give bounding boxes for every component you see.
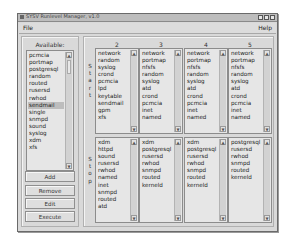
service-item[interactable]: routed bbox=[230, 167, 262, 174]
runlevel-2-stop-list[interactable]: xdmhttpdsoundrusersdrwhodnamedinetsnmpdr… bbox=[95, 137, 139, 223]
service-item[interactable]: network bbox=[97, 50, 129, 57]
remove-button[interactable]: Remove bbox=[25, 185, 75, 196]
runlevel-4-start-list[interactable]: networkportmapnfsfsrandomsyslogatdcrondp… bbox=[184, 48, 228, 134]
service-item[interactable]: gpm bbox=[97, 107, 129, 114]
service-item[interactable]: sound bbox=[97, 153, 129, 160]
list-scrollbar[interactable]: ▲▼ bbox=[219, 50, 226, 132]
service-item[interactable]: rwhod bbox=[97, 167, 129, 174]
service-item[interactable]: atd bbox=[97, 203, 129, 210]
service-item[interactable]: postgresql bbox=[186, 146, 218, 153]
service-item[interactable]: portmap bbox=[186, 57, 218, 64]
scroll-down-icon[interactable]: ▼ bbox=[220, 126, 226, 132]
service-item[interactable]: nfsfs bbox=[141, 64, 173, 71]
service-item[interactable]: crond bbox=[97, 71, 129, 78]
scroll-down-icon[interactable]: ▼ bbox=[66, 163, 72, 169]
minimize-button[interactable] bbox=[258, 15, 263, 20]
service-item[interactable]: crond bbox=[186, 93, 218, 100]
menu-file[interactable]: File bbox=[23, 24, 33, 31]
service-item[interactable]: rwhod bbox=[230, 153, 262, 160]
scroll-up-icon[interactable]: ▲ bbox=[175, 139, 181, 145]
service-item[interactable]: inet bbox=[186, 107, 218, 114]
window-menu-icon[interactable] bbox=[20, 15, 24, 19]
service-item[interactable]: rusersd bbox=[230, 146, 262, 153]
scroll-down-icon[interactable]: ▼ bbox=[175, 215, 181, 221]
scroll-down-icon[interactable]: ▼ bbox=[131, 215, 137, 221]
service-item[interactable]: network bbox=[141, 50, 173, 57]
maximize-button[interactable] bbox=[264, 15, 269, 20]
list-scrollbar[interactable]: ▲▼ bbox=[130, 139, 137, 221]
service-item[interactable]: kerneld bbox=[186, 182, 218, 189]
service-item[interactable]: kerneld bbox=[230, 174, 262, 181]
service-item[interactable]: portmap bbox=[230, 57, 262, 64]
service-item[interactable]: pcmcia bbox=[186, 100, 218, 107]
service-item[interactable]: atd bbox=[230, 85, 262, 92]
service-item[interactable]: network bbox=[186, 50, 218, 57]
service-item[interactable]: random bbox=[230, 71, 262, 78]
scroll-up-icon[interactable]: ▲ bbox=[220, 139, 226, 145]
service-item[interactable]: rusersd bbox=[186, 153, 218, 160]
runlevel-4-stop-list[interactable]: xdmpostgresqlrusersdrwhodsnmpdroutedkern… bbox=[184, 137, 228, 223]
service-item[interactable]: network bbox=[230, 50, 262, 57]
available-item[interactable]: routed bbox=[28, 80, 64, 87]
service-item[interactable]: atd bbox=[186, 85, 218, 92]
service-item[interactable]: routed bbox=[186, 174, 218, 181]
service-item[interactable]: pcmcia bbox=[230, 100, 262, 107]
available-item[interactable]: rusersd bbox=[28, 87, 64, 94]
service-item[interactable]: postgresql bbox=[230, 139, 262, 146]
available-item[interactable]: single bbox=[28, 109, 64, 116]
service-item[interactable]: syslog bbox=[186, 78, 218, 85]
service-item[interactable]: syslog bbox=[141, 78, 173, 85]
service-item[interactable]: xdm bbox=[186, 139, 218, 146]
runlevel-5-stop-list[interactable]: postgresqlrusersdrwhodsnmpdroutedkerneld… bbox=[228, 137, 272, 223]
available-item[interactable]: snmpd bbox=[28, 116, 64, 123]
available-list[interactable]: pcmciaportmappostgresqlrandomroutedruser… bbox=[26, 50, 74, 171]
scroll-down-icon[interactable]: ▼ bbox=[131, 126, 137, 132]
service-item[interactable]: lpd bbox=[97, 85, 129, 92]
available-item[interactable]: xfs bbox=[28, 144, 64, 151]
service-item[interactable]: inet bbox=[230, 107, 262, 114]
service-item[interactable]: crond bbox=[141, 93, 173, 100]
list-scrollbar[interactable]: ▲▼ bbox=[130, 50, 137, 132]
list-scrollbar[interactable]: ▲▼ bbox=[219, 139, 226, 221]
service-item[interactable]: nfsfs bbox=[230, 64, 262, 71]
service-item[interactable]: httpd bbox=[97, 146, 129, 153]
available-item[interactable]: syslog bbox=[28, 130, 64, 137]
runlevel-3-start-list[interactable]: networkportmapnfsfsrandomsyslogatdcrondp… bbox=[139, 48, 183, 134]
service-item[interactable]: random bbox=[186, 71, 218, 78]
available-item[interactable]: portmap bbox=[28, 59, 64, 66]
service-item[interactable]: random bbox=[97, 57, 129, 64]
scroll-down-icon[interactable]: ▼ bbox=[264, 215, 270, 221]
scroll-down-icon[interactable]: ▼ bbox=[264, 126, 270, 132]
service-item[interactable]: named bbox=[186, 114, 218, 121]
menu-help[interactable]: Help bbox=[258, 24, 272, 31]
scroll-down-icon[interactable]: ▼ bbox=[220, 215, 226, 221]
service-item[interactable]: keytable bbox=[97, 93, 129, 100]
service-item[interactable]: snmpd bbox=[97, 189, 129, 196]
service-item[interactable]: rusersd bbox=[97, 160, 129, 167]
scroll-up-icon[interactable]: ▲ bbox=[220, 50, 226, 56]
runlevel-2-start-list[interactable]: networkrandomsyslogcrondpcmcialpdkeytabl… bbox=[95, 48, 139, 134]
scroll-up-icon[interactable]: ▲ bbox=[264, 139, 270, 145]
available-item[interactable]: postgresql bbox=[28, 66, 64, 73]
available-item[interactable]: xdm bbox=[28, 137, 64, 144]
available-item[interactable]: sound bbox=[28, 123, 64, 130]
service-item[interactable]: portmap bbox=[141, 57, 173, 64]
scroll-up-icon[interactable]: ▲ bbox=[175, 50, 181, 56]
service-item[interactable]: snmpd bbox=[230, 160, 262, 167]
service-item[interactable]: routed bbox=[141, 174, 173, 181]
service-item[interactable]: pcmcia bbox=[141, 100, 173, 107]
available-scrollbar[interactable]: ▲ ▼ bbox=[65, 52, 72, 169]
list-scrollbar[interactable]: ▲▼ bbox=[263, 50, 270, 132]
service-item[interactable]: snmpd bbox=[141, 167, 173, 174]
list-scrollbar[interactable]: ▲▼ bbox=[174, 139, 181, 221]
available-item[interactable]: sendmail bbox=[28, 102, 64, 109]
service-item[interactable]: routed bbox=[97, 196, 129, 203]
service-item[interactable]: rwhod bbox=[186, 160, 218, 167]
service-item[interactable]: inet bbox=[141, 107, 173, 114]
execute-button[interactable]: Execute bbox=[25, 211, 75, 222]
service-item[interactable]: xdm bbox=[141, 139, 173, 146]
scroll-up-icon[interactable]: ▲ bbox=[131, 139, 137, 145]
service-item[interactable]: kerneld bbox=[141, 182, 173, 189]
add-button[interactable]: Add bbox=[25, 171, 75, 182]
title-bar[interactable]: SYSV Runlevel Manager, v1.0 bbox=[18, 14, 277, 22]
